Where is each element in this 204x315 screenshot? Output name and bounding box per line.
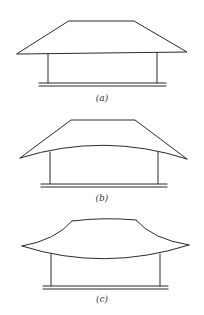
panel-b-roof-eave-arc	[20, 145, 187, 159]
panel-c-house	[22, 219, 189, 289]
panel-a-house	[17, 21, 187, 86]
panel-b-house	[20, 120, 187, 187]
panel-c-roof-left-slope	[22, 221, 72, 246]
panel-c-label: (c)	[0, 294, 204, 304]
panel-b-label: (b)	[0, 193, 204, 203]
panel-a-label: (a)	[0, 93, 204, 103]
panel-c-roof-top	[72, 219, 136, 221]
panel-a-roof	[17, 21, 187, 54]
panel-c-roof-eave-arc	[22, 245, 189, 259]
panel-b-roof-upper	[20, 120, 187, 159]
panel-c-roof-right-slope	[136, 220, 189, 245]
roof-diagram	[0, 0, 204, 315]
